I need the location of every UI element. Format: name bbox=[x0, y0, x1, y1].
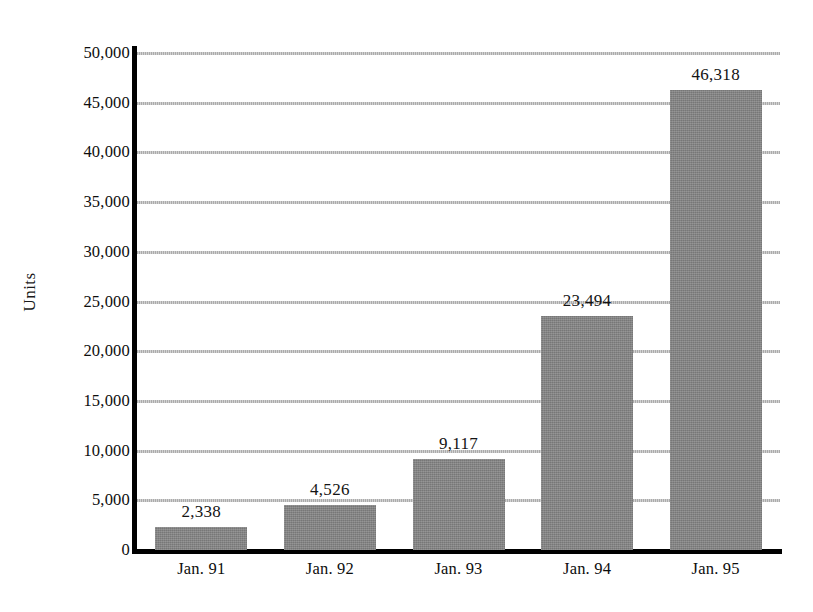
x-axis-tick-label: Jan. 94 bbox=[517, 560, 657, 578]
x-axis-tick-label: Jan. 95 bbox=[646, 560, 786, 578]
bar bbox=[670, 90, 762, 550]
y-axis-line bbox=[132, 46, 137, 554]
y-axis-tick-labels: 05,00010,00015,00020,00025,00030,00035,0… bbox=[0, 0, 130, 612]
bar-value-label: 23,494 bbox=[517, 292, 657, 310]
x-axis-tick-label: Jan. 92 bbox=[260, 560, 400, 578]
y-axis-tick-label: 35,000 bbox=[4, 194, 130, 210]
y-axis-tick-label: 45,000 bbox=[4, 95, 130, 111]
y-axis-tick-label: 50,000 bbox=[4, 45, 130, 61]
y-axis-tick-label: 10,000 bbox=[4, 443, 130, 459]
y-axis-tick-label: 0 bbox=[4, 542, 130, 558]
y-axis-tick-label: 30,000 bbox=[4, 244, 130, 260]
y-axis-tick-label: 15,000 bbox=[4, 393, 130, 409]
bar-value-label: 9,117 bbox=[389, 435, 529, 453]
y-axis-tick-label: 5,000 bbox=[4, 492, 130, 508]
bar-chart: Units 05,00010,00015,00020,00025,00030,0… bbox=[0, 0, 813, 612]
bar-value-label: 2,338 bbox=[131, 503, 271, 521]
y-axis-tick-label: 25,000 bbox=[4, 294, 130, 310]
bar bbox=[413, 459, 505, 550]
bar-value-label: 46,318 bbox=[646, 66, 786, 84]
bar bbox=[155, 527, 247, 550]
gridline bbox=[137, 52, 780, 55]
bar bbox=[284, 505, 376, 550]
x-axis-tick-label: Jan. 93 bbox=[389, 560, 529, 578]
y-axis-tick-label: 40,000 bbox=[4, 144, 130, 160]
x-axis-tick-label: Jan. 91 bbox=[131, 560, 271, 578]
bar-value-label: 4,526 bbox=[260, 481, 400, 499]
y-axis-tick-label: 20,000 bbox=[4, 343, 130, 359]
bar bbox=[541, 316, 633, 550]
